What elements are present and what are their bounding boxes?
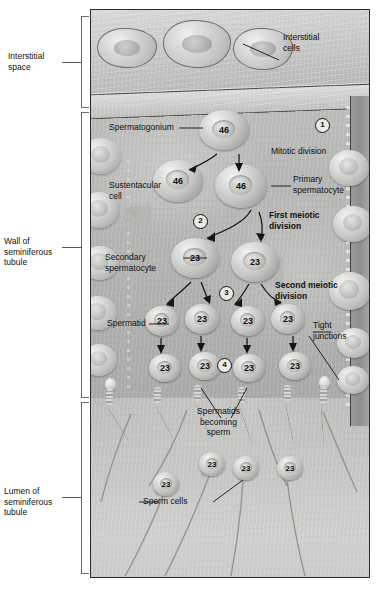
callout-spermatogonium: Spermatogonium — [109, 122, 174, 133]
sperm-cell-head: 23 — [233, 456, 259, 480]
chromosome-count: 23 — [277, 464, 303, 473]
leader-sperm-cells-2 — [213, 480, 243, 502]
spermatid-becoming-sperm: 23 — [233, 354, 265, 382]
leader-interstitial-cells — [243, 44, 279, 60]
bracket-label-lumen-of-seminiferous-tubule: Lumen of seminiferous tubule — [4, 486, 52, 518]
callout-primary-spermatocyte: Primary spermatocyte — [293, 174, 344, 195]
spermatid-becoming-sperm: 23 — [149, 354, 181, 382]
leader-tight-junctions-2 — [309, 336, 339, 380]
chromosome-count: 23 — [199, 460, 225, 469]
callout-tight-junctions: Tight junctions — [313, 320, 347, 341]
callout-second-meiotic-division: Second meiotic division — [275, 280, 338, 301]
step-marker-3: 3 — [219, 286, 234, 301]
sperm-tail — [231, 480, 243, 576]
chromosome-count: 23 — [233, 363, 265, 373]
sperm-cell-head: 23 — [277, 456, 303, 480]
sperm-tail — [287, 480, 305, 576]
chromosome-count: 23 — [271, 314, 305, 324]
callout-first-meiotic-division: First meiotic division — [269, 210, 320, 231]
callout-sperm-cells: Sperm cells — [143, 496, 187, 507]
callout-mitotic-division: Mitotic division — [271, 146, 326, 157]
step-marker-1: 1 — [315, 118, 330, 133]
spermatogenesis-illustration-panel: 46 46 46 23 23 23 23 23 23 23 23 23 23 — [90, 9, 370, 578]
callout-spermatid: Spermatid — [107, 318, 146, 329]
step-marker-2: 2 — [193, 214, 208, 229]
bracket-wall-of-seminiferous-tubule — [81, 112, 89, 398]
step-marker-4: 4 — [217, 358, 232, 373]
callout-spermatids-becoming-sperm: Spermatids becoming sperm — [197, 406, 240, 438]
spermatid-becoming-sperm: 23 — [279, 352, 311, 380]
chromosome-count: 23 — [233, 464, 259, 473]
chromosome-count: 23 — [231, 316, 265, 326]
chromosome-count: 23 — [279, 361, 311, 371]
chromosome-count: 46 — [215, 181, 267, 191]
chromosome-count: 23 — [153, 480, 179, 489]
bracket-label-interstitial-space: Interstitial space — [8, 51, 44, 72]
callout-secondary-spermatocyte: Secondary spermatocyte — [105, 252, 156, 273]
leader-lumen-of-seminiferous-tubule — [62, 497, 82, 498]
bracket-label-column: Interstitial space Wall of seminiferous … — [0, 0, 90, 594]
chromosome-count: 23 — [171, 253, 219, 263]
sperm-tail — [125, 496, 163, 576]
bracket-label-wall-of-seminiferous-tubule: Wall of seminiferous tubule — [4, 236, 52, 268]
chromosome-count: 23 — [145, 316, 179, 326]
bracket-interstitial-space — [81, 16, 89, 108]
sperm-cell-head: 23 — [199, 452, 225, 476]
sperm-tail — [101, 414, 131, 502]
sperm-tail — [323, 412, 357, 492]
leader-interstitial-space — [62, 62, 82, 63]
sperm-cell-head: 23 — [153, 472, 179, 496]
chromosome-count: 23 — [149, 363, 181, 373]
chromosome-count: 23 — [185, 314, 219, 324]
callout-interstitial-cells: Interstitial cells — [283, 32, 319, 53]
chromosome-count: 23 — [231, 257, 279, 267]
leader-wall-of-seminiferous-tubule — [62, 247, 82, 248]
callout-sustentacular-cell: Sustentacular cell — [109, 180, 161, 201]
chromosome-count: 46 — [199, 125, 249, 135]
bracket-lumen-of-seminiferous-tubule — [81, 402, 89, 574]
